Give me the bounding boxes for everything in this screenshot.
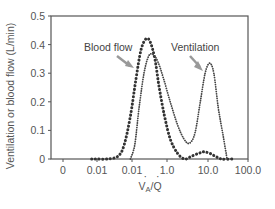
annotation-blood-flow: Blood flow [84, 41, 133, 53]
y-tick-label: 0.1 [30, 124, 45, 136]
x-axis-label: VA/Q [138, 180, 161, 194]
y-tick-label: 0 [39, 153, 45, 165]
y-axis: 00.10.20.30.40.5 [30, 10, 51, 165]
series-ventilation [130, 54, 227, 159]
x-tick-label: 100.0 [235, 164, 261, 176]
arrow-head-blood-flow-icon [125, 60, 134, 68]
x-axis-label-dot-q: · [156, 170, 160, 182]
x-tick-label: 10.0 [198, 164, 219, 176]
x-axis: 00.010.011.010.0100.0 [60, 159, 261, 176]
y-tick-label: 0.5 [30, 10, 45, 22]
y-axis-label: Ventilation or blood flow (L/min) [4, 23, 16, 170]
series-blood-flow [92, 38, 232, 159]
x-axis-label-dot-v: · [144, 170, 148, 182]
chart: 00.10.20.30.40.5 00.010.011.010.0100.0 B… [0, 0, 275, 209]
x-tick-label: 0.01 [122, 164, 143, 176]
plot-frame [51, 16, 248, 159]
x-tick-label: 0 [60, 164, 66, 176]
annotation-ventilation: Ventilation [171, 41, 220, 53]
x-tick-label: 0.01 [87, 164, 108, 176]
x-tick-label: 1.0 [160, 164, 175, 176]
y-tick-label: 0.2 [30, 96, 45, 108]
y-tick-label: 0.3 [30, 67, 45, 79]
y-tick-label: 0.4 [30, 39, 45, 51]
